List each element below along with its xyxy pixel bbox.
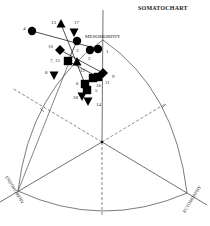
data-point-circle [86, 46, 94, 54]
data-point-label: 17 [74, 20, 80, 25]
label-mesomorphy: MESOMORPHY [85, 34, 121, 39]
data-point-square [89, 74, 97, 82]
somatochart: MESOMORPHY ENDOMORPHY ECTOMORPHY 1234567… [0, 0, 210, 226]
data-point-label: 2 [88, 56, 91, 61]
data-point-diamond [55, 45, 65, 55]
outer-arc-meso-endo [18, 40, 103, 191]
data-point-square [81, 80, 89, 88]
data-point-label: 6 [76, 81, 79, 86]
data-point-label: 7, 15 [50, 58, 61, 64]
data-point-label: 8 [45, 70, 48, 75]
data-point-label: 1 [106, 49, 109, 54]
axis-endo-to-meso [18, 60, 70, 191]
data-point-label: 13 [51, 20, 57, 25]
data-point-circle [94, 45, 102, 53]
data-point-label: 11 [105, 80, 110, 85]
data-point-label: 4 [23, 26, 26, 31]
data-point-label: 14 [96, 102, 102, 107]
outer-arc-meso-ecto [103, 40, 187, 193]
data-point-label: 5 [95, 88, 98, 93]
center-point [101, 141, 104, 144]
data-point-triangle-down [50, 72, 59, 81]
data-point-label: 10 [48, 44, 54, 49]
data-point-triangle-down [70, 29, 79, 38]
data-point-label: 18 [73, 95, 79, 100]
outer-arc-endo-ecto [18, 191, 187, 211]
data-point-circle [28, 27, 36, 35]
data-point-label: 3 [76, 48, 79, 53]
data-point-label: 9 [112, 74, 115, 79]
data-point-square [64, 57, 72, 65]
label-ectomorphy: ECTOMORPHY [182, 184, 203, 214]
dashed-axis-upper-right [102, 104, 165, 142]
data-point-label: 12 [80, 68, 86, 73]
data-point-triangle-up [57, 19, 66, 28]
data-point-circle [73, 37, 81, 45]
data-point-triangle-down [84, 98, 93, 107]
data-point-label: 16 [96, 83, 102, 88]
dashed-axis-upper-left [12, 88, 102, 142]
